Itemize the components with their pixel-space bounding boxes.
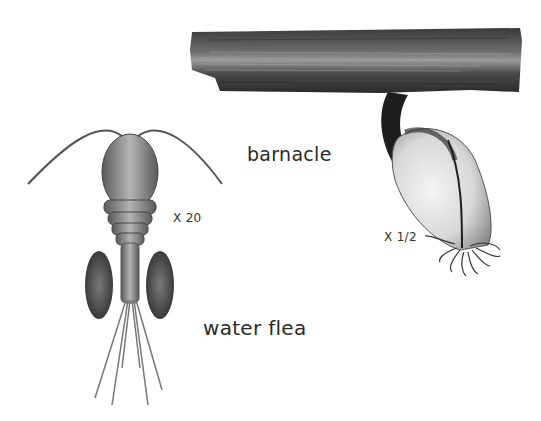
water-flea-egg-sac-right [146,251,174,319]
water-flea-egg-sac-left [85,251,113,319]
water-flea-scale-label: X 20 [173,211,202,225]
barnacle-scale-label: X 1/2 [384,230,417,244]
illustration-canvas [0,0,541,421]
barnacle-label: barnacle [247,143,332,165]
driftwood [190,28,522,93]
water-flea-tail-setae [95,300,162,405]
water-flea-label: water flea [203,316,307,340]
